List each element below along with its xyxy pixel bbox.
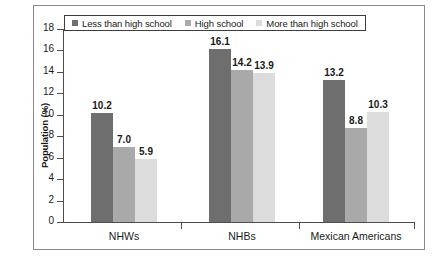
y-axis-tick: 8 [57,136,63,137]
y-axis-tick-label: 8 [48,129,54,140]
legend-item-1[interactable]: Less than high school [72,18,172,29]
bar-group: 10.27.05.9 [91,29,157,222]
bar[interactable]: 14.2 [231,70,253,222]
bar[interactable]: 5.9 [135,159,157,222]
y-axis-line [63,29,64,223]
bar-value-label: 13.2 [324,67,343,78]
y-axis-tick: 14 [57,72,63,73]
y-axis-tick-label: 2 [48,194,54,205]
bar-value-label: 7.0 [117,134,131,145]
y-axis-tick: 18 [57,29,63,30]
bar[interactable]: 10.3 [367,112,389,222]
bar[interactable]: 13.9 [253,73,275,222]
category-label: Mexican Americans [310,230,401,242]
bar[interactable]: 16.1 [209,49,231,222]
plot-area: 181614121086420 10.27.05.916.114.213.913… [63,29,415,223]
y-axis-tick: 6 [57,158,63,159]
y-axis-tick: 2 [57,201,63,202]
category-separator-tick [181,222,182,229]
y-axis-tick-label: 10 [43,108,54,119]
bar[interactable]: 8.8 [345,128,367,222]
bar-value-label: 14.2 [232,57,251,68]
y-axis-tick-label: 14 [43,65,54,76]
bar-group: 16.114.213.9 [209,29,275,222]
y-axis-tick-label: 12 [43,86,54,97]
bar[interactable]: 13.2 [323,80,345,222]
chart-figure: Population (%) 181614121086420 10.27.05.… [33,5,425,250]
y-axis-tick: 4 [57,179,63,180]
bar-value-label: 8.8 [349,115,363,126]
y-axis-tick-label: 4 [48,172,54,183]
y-axis-tick-label: 0 [48,215,54,226]
category-label: NHBs [228,230,255,242]
bar-value-label: 13.9 [254,60,273,71]
bar-value-label: 10.3 [368,99,387,110]
y-axis-tick: 16 [57,50,63,51]
legend-item-3[interactable]: More than high school [256,18,357,29]
bar-value-label: 10.2 [92,100,111,111]
bar[interactable]: 7.0 [113,147,135,222]
y-axis-tick-label: 18 [43,22,54,33]
y-axis-tick-label: 16 [43,43,54,54]
legend-label: Less than high school [82,18,172,29]
legend-swatch-icon [185,20,191,26]
bar[interactable]: 10.2 [91,113,113,222]
y-axis-tick-label: 6 [48,151,54,162]
category-separator-tick [414,222,415,229]
y-axis-tick: 0 [57,222,63,223]
chart-legend: Less than high schoolHigh schoolMore tha… [64,15,366,31]
bar-value-label: 16.1 [210,36,229,47]
y-axis-tick: 10 [57,115,63,116]
x-axis-line [63,222,415,223]
category-label: NHWs [109,230,139,242]
legend-label: More than high school [266,18,357,29]
bar-value-label: 5.9 [139,146,153,157]
legend-item-2[interactable]: High school [185,18,244,29]
category-separator-tick [299,222,300,229]
legend-swatch-icon [256,20,262,26]
legend-swatch-icon [72,20,78,26]
y-axis-tick: 12 [57,93,63,94]
bar-group: 13.28.810.3 [323,29,389,222]
legend-label: High school [195,18,244,29]
